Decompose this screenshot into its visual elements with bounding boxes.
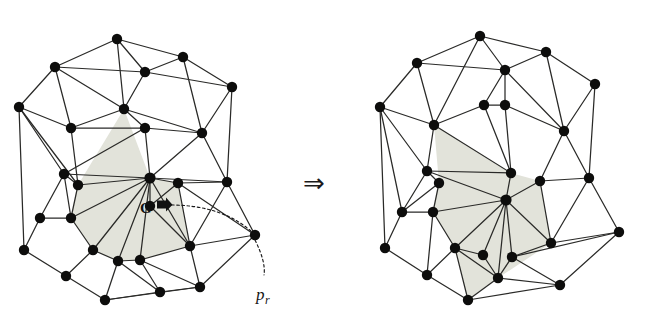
mesh-node xyxy=(222,177,232,187)
mesh-node xyxy=(135,255,145,265)
mesh-node xyxy=(450,243,460,253)
mesh-node xyxy=(614,227,624,237)
mesh-node xyxy=(375,102,385,112)
mesh-node xyxy=(66,123,76,133)
mesh-node xyxy=(422,270,432,280)
mesh-node xyxy=(59,169,69,179)
mesh-node xyxy=(590,79,600,89)
mesh-node xyxy=(500,65,510,75)
mesh-node xyxy=(66,213,76,223)
mesh-node xyxy=(50,62,60,72)
mesh-node xyxy=(412,58,422,68)
transition-arrow-group: ⇒ xyxy=(303,168,325,198)
mesh-node xyxy=(140,67,150,77)
mesh-node xyxy=(428,207,438,217)
mesh-node xyxy=(493,273,503,283)
mesh-node xyxy=(541,47,551,57)
mesh-node xyxy=(140,123,150,133)
mesh-node xyxy=(155,287,165,297)
mesh-node xyxy=(195,282,205,292)
mesh-node xyxy=(463,295,473,305)
mesh-node xyxy=(500,100,510,110)
mesh-node xyxy=(422,166,432,176)
mesh-node xyxy=(479,100,489,110)
mesh-node xyxy=(197,128,207,138)
mesh-hub-node xyxy=(500,194,511,205)
mesh-node xyxy=(434,178,444,188)
mesh-node xyxy=(173,178,183,188)
mesh-node xyxy=(61,271,71,281)
mesh-node xyxy=(88,245,98,255)
hub-label-g: G xyxy=(140,200,152,216)
mesh-node xyxy=(100,295,110,305)
mesh-node xyxy=(507,252,517,262)
mesh-node xyxy=(555,280,565,290)
triangulation-figure: G pr ⇒ xyxy=(0,0,645,329)
mesh-node xyxy=(112,34,122,44)
mesh-node xyxy=(380,243,390,253)
mesh-node xyxy=(113,256,123,266)
mesh-node xyxy=(14,102,24,112)
mesh-node xyxy=(119,104,129,114)
mesh-node xyxy=(73,180,83,190)
mesh-node xyxy=(584,173,594,183)
mesh-node xyxy=(475,31,485,41)
mesh-node xyxy=(506,168,516,178)
mesh-node xyxy=(535,176,545,186)
mesh-node xyxy=(478,250,488,260)
mesh-node xyxy=(559,126,569,136)
mesh-node xyxy=(227,82,237,92)
mesh-node xyxy=(546,238,556,248)
mesh-node xyxy=(19,245,29,255)
mesh-hub-node xyxy=(144,172,155,183)
mesh-node xyxy=(35,213,45,223)
mesh-node xyxy=(178,52,188,62)
mesh-node xyxy=(429,120,439,130)
mesh-node xyxy=(397,207,407,217)
mesh-node xyxy=(185,241,195,251)
implies-arrow-icon: ⇒ xyxy=(303,168,325,198)
